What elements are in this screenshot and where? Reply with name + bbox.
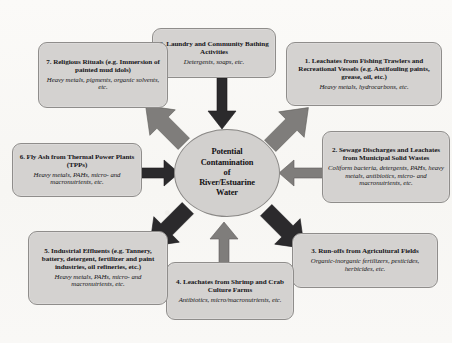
- node-religious-rituals: 7. Religious Rituals (e.g. Immersion of …: [38, 42, 168, 108]
- node-8-title: 8. Laundry and Community Bathing Activit…: [157, 41, 271, 57]
- node-3-subtitle: Organic-inorganic fertilizers, pesticide…: [297, 257, 433, 272]
- node-6-title: 6. Fly Ash from Thermal Power Plants (TP…: [17, 154, 137, 170]
- center-line-2: Contamination: [201, 158, 254, 167]
- node-2-title: 2. Sewage Discharges and Leachates from …: [327, 147, 445, 163]
- node-sewage-discharges: 2. Sewage Discharges and Leachates from …: [322, 131, 450, 203]
- center-line-4: River/Estuarine: [199, 178, 255, 187]
- node-shrimp-crab-culture-farms: 4. Leachates from Shrimp and Crab Cultur…: [166, 262, 294, 320]
- center-node-label: Potential Contamination of River/Estuari…: [199, 147, 255, 198]
- contamination-source-diagram: Potential Contamination of River/Estuari…: [0, 0, 452, 343]
- node-7-subtitle: Heavy metals, pigments, organic solvents…: [43, 76, 163, 91]
- node-5-subtitle: Heavy metals, PAHs, micro- and macronutr…: [33, 273, 163, 288]
- node-7-title: 7. Religious Rituals (e.g. Immersion of …: [43, 59, 163, 75]
- node-5-title: 5. Industrial Effluents (e.g. Tannery, b…: [33, 248, 163, 272]
- node-8-subtitle: Detergents, soaps, etc.: [184, 58, 244, 66]
- node-agricultural-runoffs: 3. Run-offs from Agricultural Fields Org…: [292, 233, 438, 288]
- node-1-subtitle: Heavy metals, hydrocarbons, etc.: [319, 83, 408, 91]
- center-line-1: Potential: [211, 147, 242, 156]
- node-laundry-and-community-bathing: 8. Laundry and Community Bathing Activit…: [152, 28, 276, 78]
- center-line-5: Water: [216, 188, 238, 197]
- node-2-subtitle: Coliform bacteria, detergents, PAHs, hea…: [327, 164, 445, 187]
- node-fly-ash-thermal-power-plants: 6. Fly Ash from Thermal Power Plants (TP…: [12, 143, 142, 197]
- node-4-subtitle: Antibiotics, micro/macronutrients, etc.: [179, 296, 282, 304]
- center-line-3: of: [224, 168, 231, 177]
- arrow-from-node-8-down: [206, 78, 238, 130]
- node-6-subtitle: Heavy metals, PAHs, micro- and macronutr…: [17, 171, 137, 186]
- node-4-title: 4. Leachates from Shrimp and Crab Cultur…: [171, 279, 289, 295]
- center-node-potential-contamination: Potential Contamination of River/Estuari…: [174, 129, 280, 217]
- node-leachates-fishing-trawlers: 1. Leachates from Fishing Trawlers and R…: [286, 42, 442, 106]
- node-1-title: 1. Leachates from Fishing Trawlers and R…: [291, 58, 437, 82]
- node-3-title: 3. Run-offs from Agricultural Fields: [311, 248, 418, 256]
- arrow-from-node-2-left: [278, 158, 324, 188]
- node-industrial-effluents: 5. Industrial Effluents (e.g. Tannery, b…: [28, 231, 168, 305]
